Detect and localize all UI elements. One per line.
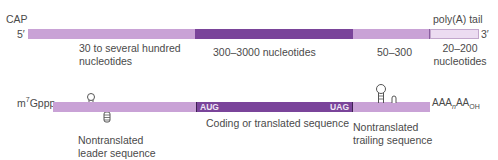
leader-length-label: 30 to several hundred nucleotides: [79, 42, 181, 68]
polya-tail-formula: AAAnAAOH: [432, 96, 480, 113]
trailer-segment: [353, 29, 430, 39]
polya-tail-label: poly(A) tail: [433, 13, 483, 26]
small-stem-loop-icon: [391, 95, 397, 103]
leader-segment: [28, 29, 195, 39]
cap-structure-label: m7Gppp: [17, 93, 55, 110]
coding-sequence-label: Coding or translated sequence: [206, 117, 349, 130]
stop-codon-label: UAG: [330, 102, 349, 112]
trailer-region: [353, 102, 430, 112]
large-stem-loop-icon: [375, 84, 387, 103]
coding-region: AUG UAG: [196, 102, 353, 112]
leader-sequence-label: Nontranslated leader sequence: [78, 134, 156, 160]
trailing-sequence-label: Nontranslated trailing sequence: [353, 121, 432, 147]
coding-length-label: 300–3000 nucleotides: [213, 46, 316, 59]
leader-region: [53, 102, 196, 112]
trailer-length-label: 50–300: [377, 46, 412, 59]
five-prime-label: 5′: [17, 28, 25, 41]
bottom-mrna-bar: AUG UAG: [53, 102, 430, 112]
coding-segment: [195, 29, 353, 39]
polya-segment: [430, 29, 479, 39]
cap-label: CAP: [6, 13, 28, 26]
polya-length-label: 20–200 nucleotides: [430, 42, 490, 68]
hairpin-stem-icon: [103, 112, 111, 123]
start-codon-label: AUG: [200, 102, 219, 112]
top-mrna-bar: [28, 29, 479, 39]
three-prime-label: 3′: [481, 28, 489, 41]
